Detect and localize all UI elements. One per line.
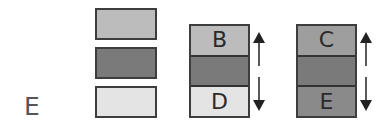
panel-label: E	[24, 94, 40, 119]
arrow-down-icon	[359, 77, 373, 111]
arrow-down-icon	[252, 77, 266, 111]
segment-label: B	[212, 29, 227, 51]
segment-d: D	[191, 85, 248, 116]
segment-dark	[191, 55, 248, 86]
segment-b: B	[191, 26, 248, 55]
legend-box-dark	[95, 47, 157, 79]
column-b-d: B D	[189, 24, 250, 118]
segment-label: E	[320, 91, 334, 113]
segment-label: D	[211, 91, 228, 113]
arrow-up-icon	[252, 32, 266, 66]
legend-box-pale	[95, 86, 157, 118]
legend-box-light	[95, 8, 157, 40]
column-c-e: C E	[296, 24, 357, 118]
segment-e: E	[298, 85, 355, 116]
segment-c: C	[298, 26, 355, 55]
arrow-up-icon	[359, 32, 373, 66]
segment-label: C	[319, 29, 334, 51]
segment-dark	[298, 55, 355, 86]
